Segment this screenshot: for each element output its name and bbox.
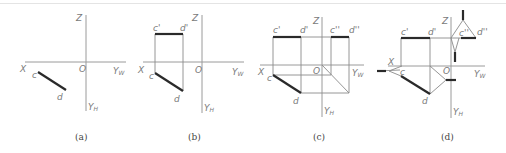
- caption-a: (a): [75, 132, 87, 142]
- caption-c: (c): [313, 132, 325, 142]
- label-yh: YH: [88, 102, 99, 112]
- line-cd-horizontal-projection: [273, 75, 301, 93]
- label-d-prime: d': [428, 27, 436, 37]
- label-o: O: [443, 66, 450, 76]
- label-o: O: [313, 66, 320, 76]
- label-d-double-prime: d'': [477, 27, 488, 37]
- label-c-double-prime: c'': [459, 28, 469, 38]
- label-d: d: [174, 94, 180, 104]
- label-yh: YH: [204, 103, 215, 113]
- label-yw: YW: [113, 66, 126, 76]
- line-cd-horizontal-projection: [155, 73, 183, 91]
- label-z: Z: [312, 16, 320, 26]
- line-cd-horizontal-projection: [401, 76, 430, 94]
- panel-a: Z X O YW YH c d (a): [19, 13, 126, 142]
- projection-diagrams: Z X O YW YH c d (a) Z X O YW YH c d c' d…: [0, 0, 506, 153]
- label-c-prime: c': [153, 23, 160, 33]
- triangle-side-lower: [451, 38, 459, 52]
- label-o: O: [195, 65, 202, 75]
- label-c: c: [267, 73, 272, 83]
- label-yh: YH: [453, 107, 464, 117]
- label-yw: YW: [474, 69, 487, 79]
- label-c: c: [149, 71, 154, 81]
- label-c-prime: c': [401, 27, 408, 37]
- label-z: Z: [191, 13, 199, 23]
- label-d: d: [293, 96, 299, 106]
- caption-d: (d): [441, 132, 454, 142]
- label-c: c: [32, 70, 37, 80]
- label-yh: YH: [324, 106, 335, 116]
- label-d-prime: d': [180, 23, 188, 33]
- label-yw: YW: [352, 68, 365, 78]
- label-c-double-prime: c'': [330, 25, 340, 35]
- panel-d: Z X O YW YH c d c' d' c'' d'' (d): [377, 10, 488, 142]
- label-d-double-prime: d'': [349, 25, 360, 35]
- label-x: X: [19, 64, 27, 74]
- miter-line: [322, 65, 349, 93]
- label-yw: YW: [232, 67, 245, 77]
- label-x: X: [137, 65, 145, 75]
- line-cd-horizontal-projection: [38, 72, 66, 90]
- miter-lower: [430, 80, 446, 94]
- label-x: X: [387, 57, 395, 67]
- label-x: X: [257, 67, 265, 77]
- label-z: Z: [441, 16, 449, 26]
- panel-c: Z X O YW YH c d c' d' c'' d'' (c): [257, 16, 365, 142]
- label-c-prime: c': [273, 25, 280, 35]
- caption-b: (b): [188, 132, 201, 142]
- label-d-prime: d': [300, 25, 308, 35]
- label-d: d: [57, 92, 63, 102]
- label-z: Z: [75, 13, 83, 23]
- panel-b: Z X O YW YH c d c' d' (b): [137, 13, 245, 142]
- label-d: d: [422, 96, 428, 106]
- label-c: c: [400, 67, 405, 77]
- label-o: O: [79, 64, 86, 74]
